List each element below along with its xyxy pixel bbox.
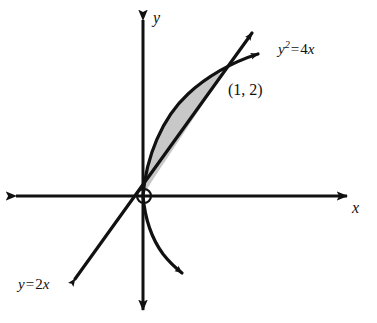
intersection-point-label: (1, 2) bbox=[228, 82, 263, 98]
math-figure: y x y2=4x y=2x (1, 2) bbox=[0, 0, 377, 323]
y-axis-label: y bbox=[153, 10, 160, 26]
parabola-lower-branch bbox=[143, 196, 182, 273]
shaded-region bbox=[143, 72, 225, 196]
parabola-label-exponent: 2 bbox=[285, 39, 290, 50]
line-label-coefficient: 2 bbox=[35, 276, 43, 292]
x-axis-label: x bbox=[352, 200, 359, 216]
parabola-label-relation: = bbox=[290, 41, 300, 57]
parabola-label-variable: x bbox=[308, 41, 315, 57]
line-equation-label: y=2x bbox=[18, 277, 49, 292]
line-label-variable: x bbox=[43, 276, 50, 292]
parabola-upper-branch bbox=[143, 54, 258, 196]
line-label-relation: = bbox=[25, 276, 35, 292]
parabola-label-coefficient: 4 bbox=[300, 41, 308, 57]
parabola-equation-label: y2=4x bbox=[278, 40, 314, 57]
figure-canvas bbox=[0, 0, 377, 323]
line-label-base: y bbox=[18, 276, 25, 292]
line-y-equals-2x bbox=[75, 33, 252, 279]
parabola-label-base: y bbox=[278, 41, 285, 57]
